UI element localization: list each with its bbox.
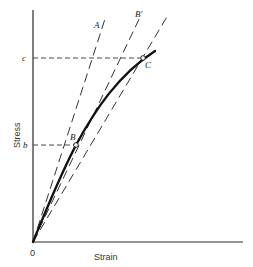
label-A: A: [93, 20, 100, 30]
y-tick-c: c: [22, 53, 26, 63]
point-B: [74, 143, 79, 148]
y-tick-b: b: [23, 140, 28, 150]
label-B-prime: B′: [135, 9, 143, 19]
line-C-secant: [33, 15, 168, 242]
stress-strain-diagram: A B′ B C c b 0 Strain Stress: [0, 0, 253, 267]
label-C: C: [145, 60, 152, 70]
stress-strain-curve: [33, 51, 155, 242]
y-axis-label: Stress: [12, 122, 22, 148]
line-A: [33, 19, 105, 242]
origin-label: 0: [30, 248, 35, 258]
line-B-prime: [33, 15, 141, 242]
label-B: B: [70, 132, 76, 142]
x-axis-label: Strain: [94, 252, 118, 262]
